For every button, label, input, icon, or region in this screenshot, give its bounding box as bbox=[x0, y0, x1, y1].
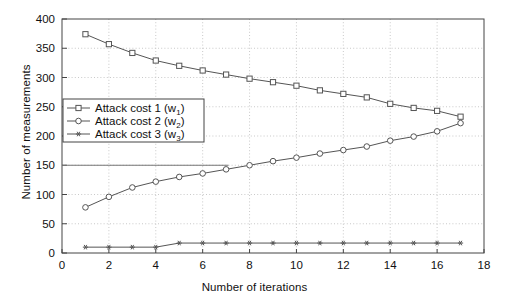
data-point bbox=[177, 241, 182, 246]
data-point bbox=[83, 245, 88, 250]
data-point bbox=[200, 171, 206, 177]
x-tick-label: 6 bbox=[199, 259, 205, 271]
data-point bbox=[364, 95, 369, 100]
y-tick-label: 200 bbox=[36, 130, 55, 142]
line-chart-canvas: 024681012141618050100150200250300350400 … bbox=[0, 0, 509, 302]
data-point bbox=[76, 105, 81, 110]
data-point bbox=[317, 88, 322, 93]
data-point bbox=[247, 241, 252, 246]
y-tick-label: 0 bbox=[49, 247, 55, 259]
chart-legend[interactable]: Attack cost 1 (w1)Attack cost 2 (w2)Atta… bbox=[63, 99, 204, 143]
data-point bbox=[458, 241, 463, 246]
data-point bbox=[130, 50, 135, 55]
y-axis-title: Number of measurements bbox=[20, 57, 32, 207]
data-point bbox=[387, 138, 393, 144]
x-tick-label: 16 bbox=[431, 259, 444, 271]
y-tick-label: 300 bbox=[36, 72, 55, 84]
data-point bbox=[411, 134, 417, 140]
data-point bbox=[153, 179, 159, 185]
data-point bbox=[435, 241, 440, 246]
x-tick-label: 14 bbox=[384, 259, 397, 271]
data-point bbox=[106, 194, 112, 200]
data-point bbox=[435, 108, 440, 113]
y-tick-label: 50 bbox=[42, 218, 55, 230]
x-tick-label: 12 bbox=[337, 259, 350, 271]
data-point bbox=[458, 120, 464, 126]
data-point bbox=[247, 162, 253, 168]
data-point bbox=[200, 68, 205, 73]
data-point bbox=[270, 80, 275, 85]
data-point bbox=[317, 151, 323, 157]
y-tick-label: 100 bbox=[36, 189, 55, 201]
data-point bbox=[177, 63, 182, 68]
data-point bbox=[341, 241, 346, 246]
y-tick-label: 400 bbox=[36, 13, 55, 25]
data-point bbox=[153, 245, 158, 250]
data-point bbox=[200, 241, 205, 246]
data-point bbox=[294, 83, 299, 88]
data-point bbox=[341, 91, 346, 96]
data-point bbox=[388, 101, 393, 106]
x-tick-label: 18 bbox=[478, 259, 491, 271]
data-point bbox=[224, 241, 229, 246]
data-point bbox=[224, 72, 229, 77]
data-point bbox=[270, 241, 275, 246]
data-point bbox=[223, 167, 229, 173]
data-point bbox=[294, 155, 300, 161]
x-tick-label: 4 bbox=[153, 259, 160, 271]
data-point bbox=[364, 144, 370, 150]
data-point bbox=[364, 241, 369, 246]
data-point bbox=[83, 32, 88, 37]
data-point bbox=[270, 158, 276, 164]
data-point bbox=[106, 245, 111, 250]
x-tick-label: 2 bbox=[106, 259, 112, 271]
data-point bbox=[83, 205, 89, 211]
data-point bbox=[317, 241, 322, 246]
data-point bbox=[106, 42, 111, 47]
y-tick-label: 350 bbox=[36, 42, 55, 54]
y-tick-label: 150 bbox=[36, 159, 55, 171]
data-point bbox=[153, 58, 158, 63]
x-tick-label: 10 bbox=[290, 259, 303, 271]
data-point bbox=[294, 241, 299, 246]
data-point bbox=[130, 245, 135, 250]
data-point bbox=[458, 114, 463, 119]
data-point bbox=[176, 174, 182, 180]
data-point bbox=[411, 105, 416, 110]
data-point bbox=[434, 129, 440, 135]
chart-figure: 024681012141618050100150200250300350400 … bbox=[0, 0, 509, 302]
data-point bbox=[247, 76, 252, 81]
y-tick-label: 250 bbox=[36, 101, 55, 113]
x-axis-title: Number of iterations bbox=[0, 281, 509, 293]
series-3 bbox=[83, 241, 463, 250]
data-point bbox=[130, 185, 136, 191]
x-tick-label: 8 bbox=[246, 259, 252, 271]
data-point bbox=[411, 241, 416, 246]
data-point bbox=[388, 241, 393, 246]
x-tick-label: 0 bbox=[59, 259, 65, 271]
data-point bbox=[341, 147, 347, 153]
data-point bbox=[76, 118, 82, 124]
